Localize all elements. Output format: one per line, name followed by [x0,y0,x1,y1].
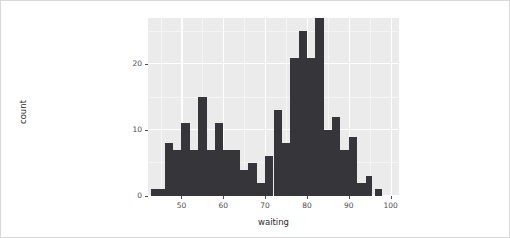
histogram-bar [282,143,290,196]
gridline-major-y [148,63,399,64]
gridline-major-x [391,18,392,196]
x-tick-label: 50 [166,202,196,210]
y-tick-label: 20 [108,60,142,68]
histogram-bar [332,117,340,196]
figure-frame: 01020 5060708090100 waiting count [0,0,510,238]
y-axis-title: count [18,82,28,142]
histogram-bar [265,156,273,196]
histogram-bar [240,170,248,196]
histogram-bar [315,18,323,196]
y-tick-mark [145,64,148,65]
histogram-bar [349,137,357,196]
x-tick-label: 70 [250,202,280,210]
histogram-bar [375,189,383,196]
histogram-bar [274,110,282,196]
histogram-bar [290,58,298,196]
x-tick-mark [181,196,182,199]
y-tick-label: 0 [108,192,142,200]
histogram-bar [215,123,223,196]
histogram-bar [151,189,159,196]
y-tick-mark [145,196,148,197]
x-tick-mark [265,196,266,199]
y-tick-mark [145,130,148,131]
histogram-bar [181,123,189,196]
histogram-bar [340,150,348,196]
x-tick-label: 60 [208,202,238,210]
x-axis-title: waiting [148,217,399,227]
histogram-bar [207,150,215,196]
gridline-minor-x [370,18,371,196]
histogram-bar [232,150,240,196]
histogram-bar [366,176,372,196]
histogram-bar [299,31,307,196]
plot-area: 01020 5060708090100 waiting count [1,1,510,238]
x-tick-label: 90 [334,202,364,210]
histogram-bar [324,130,332,196]
histogram-bar [223,150,231,196]
gridline-minor-y [148,97,399,98]
x-tick-mark [223,196,224,199]
histogram-bar [190,150,198,196]
x-tick-label: 100 [376,202,406,210]
histogram-bar [307,58,315,196]
histogram-bar [198,97,206,196]
histogram-bar [357,183,365,196]
y-tick-label: 10 [108,126,142,134]
x-tick-label: 80 [292,202,322,210]
x-tick-mark [349,196,350,199]
chart-panel [148,18,399,196]
histogram-bar [165,143,173,196]
histogram-bar [257,183,265,196]
x-tick-mark [391,196,392,199]
histogram-bar [248,163,256,196]
gridline-minor-x [161,18,162,196]
gridline-minor-y [148,31,399,32]
x-tick-mark [307,196,308,199]
histogram-bar [173,150,181,196]
